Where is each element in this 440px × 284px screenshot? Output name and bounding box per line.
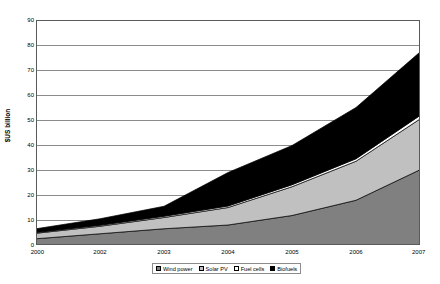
plot-area (36, 20, 420, 245)
y-tick-label: 60 (14, 92, 34, 98)
area-series-group (36, 52, 420, 245)
legend-item: Wind power (156, 266, 193, 272)
legend-label: Solar PV (206, 266, 228, 272)
legend-label: Fuel cells (241, 266, 265, 272)
legend-item: Solar PV (199, 266, 228, 272)
legend-swatch-icon (270, 266, 275, 271)
x-tick-label: 2005 (285, 249, 298, 255)
x-axis-tick-labels: 2000200220032004200520062007 (36, 249, 420, 261)
stacked-area-chart: $US billion 0102030405060708090 20002002… (0, 0, 440, 284)
legend-swatch-icon (199, 266, 204, 271)
plot-svg (36, 20, 420, 245)
x-tick-label: 2002 (93, 249, 106, 255)
x-tick-label: 2004 (221, 249, 234, 255)
y-tick-label: 50 (14, 117, 34, 123)
y-tick-label: 30 (14, 167, 34, 173)
legend-label: Biofuels (277, 266, 297, 272)
y-tick-label: 70 (14, 67, 34, 73)
y-tick-label: 0 (14, 242, 34, 248)
chart-legend: Wind powerSolar PVFuel cellsBiofuels (152, 263, 301, 274)
x-tick-label: 2003 (157, 249, 170, 255)
legend-item: Biofuels (270, 266, 297, 272)
y-tick-label: 90 (14, 17, 34, 23)
legend-item: Fuel cells (234, 266, 265, 272)
x-tick-label: 2006 (349, 249, 362, 255)
legend-swatch-icon (234, 266, 239, 271)
legend-swatch-icon (156, 266, 161, 271)
y-axis-tick-labels: 0102030405060708090 (14, 20, 34, 245)
x-tick-label: 2000 (31, 249, 44, 255)
y-tick-label: 80 (14, 42, 34, 48)
y-tick-label: 20 (14, 192, 34, 198)
y-axis-title-label: $US billion (5, 108, 12, 142)
y-tick-label: 40 (14, 142, 34, 148)
y-tick-label: 10 (14, 217, 34, 223)
x-tick-label: 2007 (412, 249, 425, 255)
legend-label: Wind power (163, 266, 193, 272)
